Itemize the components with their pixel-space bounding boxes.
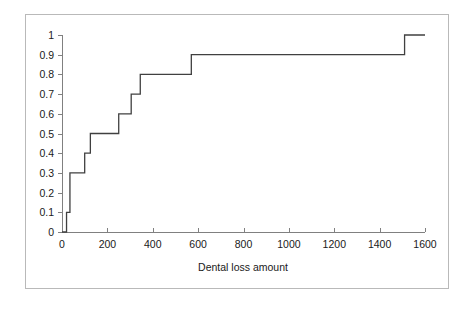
x-tick-label: 600 xyxy=(189,239,207,250)
y-tick-label: 0.6 xyxy=(30,109,54,120)
y-tick-label: 0.9 xyxy=(30,49,54,60)
y-tick-label: 1 xyxy=(30,30,54,41)
y-tick-label: 0.4 xyxy=(30,148,54,159)
y-tick-label: 0.8 xyxy=(30,69,54,80)
chart-plot-area: 1 0.9 0.8 0.7 0.6 0.5 0.4 0.3 0.2 0.1 0 … xyxy=(0,0,473,312)
y-tick-label: 0.1 xyxy=(30,207,54,218)
y-tick-label: 0.3 xyxy=(30,168,54,179)
y-axis-ticks xyxy=(58,36,62,233)
x-tick-label: 1000 xyxy=(277,239,300,250)
x-axis xyxy=(62,228,426,232)
y-tick-label: 0.5 xyxy=(30,128,54,139)
y-tick-label: 0.2 xyxy=(30,187,54,198)
x-tick-label: 1400 xyxy=(368,239,391,250)
y-tick-label: 0.7 xyxy=(30,89,54,100)
x-axis-title: Dental loss amount xyxy=(198,262,288,273)
x-tick-label: 800 xyxy=(235,239,253,250)
x-tick-label: 0 xyxy=(59,239,65,250)
y-axis xyxy=(58,35,62,233)
x-tick-label: 400 xyxy=(144,239,162,250)
x-tick-label: 1600 xyxy=(413,239,436,250)
x-axis-ticks xyxy=(63,228,426,232)
x-tick-label: 1200 xyxy=(323,239,346,250)
y-tick-label: 0 xyxy=(30,227,54,238)
ecdf-step-curve xyxy=(62,35,425,232)
x-tick-label: 200 xyxy=(99,239,117,250)
